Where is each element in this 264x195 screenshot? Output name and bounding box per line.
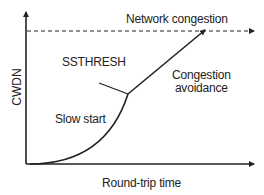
slow-start-label: Slow start: [55, 112, 106, 126]
ssthresh-pointer: [99, 83, 128, 94]
tcp-congestion-diagram: CWDN Round-trip time Network congestion …: [0, 0, 264, 195]
diagram-graphics: [0, 0, 264, 195]
ssthresh-label: SSTHRESH: [62, 55, 126, 69]
congestion-avoidance-line2: avoidance: [172, 82, 231, 95]
y-axis-label: CWDN: [10, 68, 24, 105]
congestion-avoidance-label: Congestion avoidance: [172, 69, 231, 95]
slow-start-curve: [30, 94, 128, 164]
x-axis-label: Round-trip time: [102, 176, 181, 190]
network-congestion-label: Network congestion: [126, 12, 228, 26]
